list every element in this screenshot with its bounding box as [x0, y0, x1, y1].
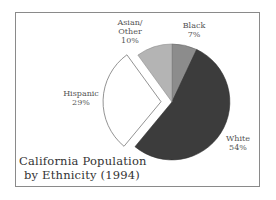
label-black-name: Black — [172, 21, 216, 30]
label-black: Black 7% — [172, 21, 216, 39]
label-white: White 54% — [218, 134, 258, 152]
label-asian-value: 10% — [112, 36, 148, 45]
label-asian-line2: Other — [112, 27, 148, 36]
label-white-value: 54% — [218, 143, 258, 152]
label-asian-line1: Asian/ — [112, 18, 148, 27]
label-hispanic-value: 29% — [58, 98, 104, 107]
chart-title-line2: by Ethnicity (1994) — [19, 168, 147, 182]
label-white-name: White — [218, 134, 258, 143]
label-hispanic-name: Hispanic — [58, 89, 104, 98]
label-black-value: 7% — [172, 30, 216, 39]
chart-title: California Population by Ethnicity (1994… — [19, 154, 147, 182]
label-asian-other: Asian/ Other 10% — [112, 18, 148, 45]
chart-title-line1: California Population — [19, 154, 147, 168]
label-hispanic: Hispanic 29% — [58, 89, 104, 107]
